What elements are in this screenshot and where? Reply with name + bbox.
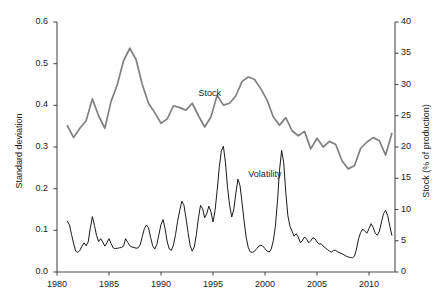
y-axis-left-tick-label: 0.4 [22, 99, 48, 109]
x-axis-tick-label: 1980 [37, 279, 77, 289]
series-annotation-stock: Stock [198, 88, 221, 98]
y-axis-right-tick-label: 35 [401, 47, 427, 57]
x-axis-tick-label: 2000 [245, 279, 285, 289]
series-line-stock [67, 48, 391, 169]
y-axis-left-tick-label: 0.2 [22, 183, 48, 193]
y-axis-left-tick-label: 0.1 [22, 224, 48, 234]
x-axis-tick-label: 1985 [89, 279, 129, 289]
chart-figure: Standard deviation Stock (% of productio… [0, 0, 445, 304]
y-axis-left-tick-label: 0.6 [22, 16, 48, 26]
x-axis-tick-label: 2010 [349, 279, 389, 289]
x-axis-tick-label: 2005 [297, 279, 337, 289]
plot-area [0, 0, 445, 304]
y-axis-right-tick-label: 25 [401, 110, 427, 120]
y-axis-right-tick-label: 40 [401, 16, 427, 26]
y-axis-right-tick-label: 5 [401, 235, 427, 245]
x-axis-tick-label: 1990 [141, 279, 181, 289]
y-axis-left-tick-label: 0.5 [22, 58, 48, 68]
y-axis-right-tick-label: 30 [401, 79, 427, 89]
y-axis-right-tick-label: 15 [401, 172, 427, 182]
y-axis-right-tick-label: 20 [401, 141, 427, 151]
y-axis-left-tick-label: 0.3 [22, 141, 48, 151]
y-axis-right-tick-label: 0 [401, 266, 427, 276]
series-annotation-volatility: Volatility [248, 169, 281, 179]
y-axis-right-tick-label: 10 [401, 204, 427, 214]
x-axis-tick-label: 1995 [193, 279, 233, 289]
y-axis-left-tick-label: 0.0 [22, 266, 48, 276]
